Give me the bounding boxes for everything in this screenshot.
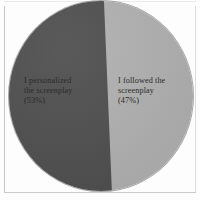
frame-border-right [195,6,196,192]
frame-border-left [4,6,5,192]
pie-label-personalized: I personalized the screenplay (53%) [24,76,96,107]
pie-label-followed: I followed the screenplay (47%) [118,76,186,107]
frame-border-bottom [4,192,196,193]
pie-chart-figure: I personalized the screenplay (53%) I fo… [0,0,200,200]
